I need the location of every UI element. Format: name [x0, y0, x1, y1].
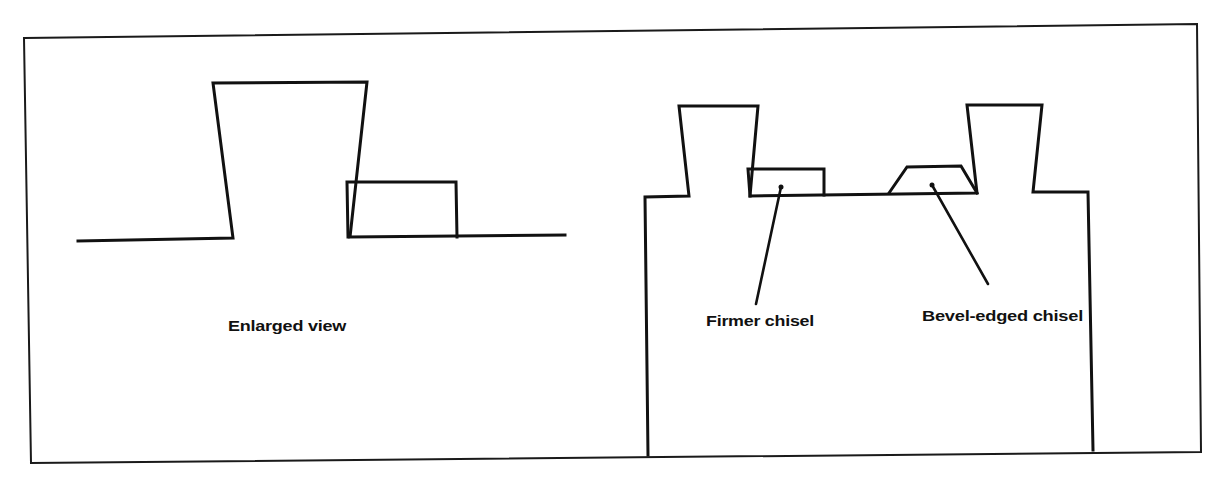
firmer-chisel-shape — [748, 169, 824, 196]
enlarged-view-caption: Enlarged view — [228, 317, 347, 334]
diagram-frame — [24, 24, 1201, 463]
firmer-chisel-label: Firmer chisel — [706, 312, 814, 329]
dovetail-chisel-diagram: Enlarged view Firmer chisel Bevel-edged … — [0, 0, 1222, 480]
bevel-edged-chisel-label: Bevel-edged chisel — [922, 307, 1083, 324]
firmer-chisel-leader — [756, 187, 781, 304]
workpiece-panel: Firmer chisel Bevel-edged chisel — [645, 105, 1093, 455]
firmer-chisel-leader-tip — [779, 185, 784, 190]
bevel-chisel-leader — [932, 185, 988, 284]
dovetail-pin-outline — [78, 82, 565, 241]
workpiece-outline — [645, 105, 1093, 455]
enlarged-view-panel: Enlarged view — [78, 82, 565, 334]
bevel-chisel-leader-tip — [930, 183, 935, 188]
firmer-chisel-section — [347, 182, 457, 237]
